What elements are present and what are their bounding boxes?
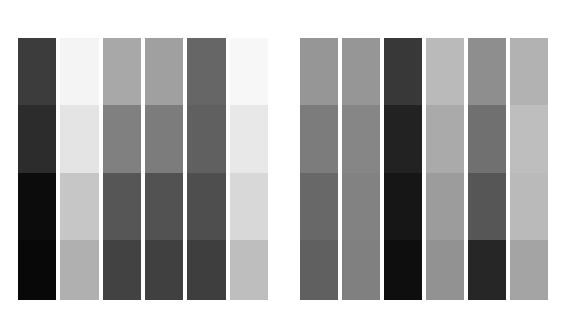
heatmap-cell bbox=[18, 38, 56, 105]
heatmap-panel-left bbox=[18, 38, 268, 300]
heatmap-cell bbox=[300, 105, 338, 173]
heatmap-cell bbox=[230, 105, 268, 173]
heatmap-cell bbox=[510, 105, 548, 173]
heatmap-column bbox=[342, 38, 380, 300]
heatmap-cell bbox=[384, 240, 422, 300]
heatmap-column bbox=[18, 38, 56, 300]
heatmap-cell bbox=[103, 38, 141, 105]
heatmap-cell bbox=[145, 173, 183, 240]
heatmap-cell bbox=[426, 105, 464, 173]
heatmap-cell bbox=[300, 240, 338, 300]
heatmap-cell bbox=[384, 173, 422, 240]
heatmap-cell bbox=[187, 105, 225, 173]
heatmap-cell bbox=[230, 173, 268, 240]
heatmap-cell bbox=[468, 173, 506, 240]
heatmap-cell bbox=[60, 240, 98, 300]
heatmap-cell bbox=[187, 240, 225, 300]
heatmap-cell bbox=[103, 105, 141, 173]
heatmap-cell bbox=[426, 173, 464, 240]
figure-canvas bbox=[0, 0, 562, 330]
heatmap-column bbox=[103, 38, 141, 300]
heatmap-cell bbox=[510, 173, 548, 240]
heatmap-cell bbox=[300, 38, 338, 105]
heatmap-column bbox=[510, 38, 548, 300]
heatmap-cell bbox=[342, 240, 380, 300]
heatmap-cell bbox=[468, 105, 506, 173]
heatmap-cell bbox=[510, 240, 548, 300]
heatmap-cell bbox=[60, 105, 98, 173]
heatmap-column bbox=[60, 38, 98, 300]
heatmap-cell bbox=[18, 105, 56, 173]
heatmap-cell bbox=[230, 240, 268, 300]
heatmap-column bbox=[187, 38, 225, 300]
heatmap-cell bbox=[230, 38, 268, 105]
heatmap-cell bbox=[468, 38, 506, 105]
heatmap-column bbox=[426, 38, 464, 300]
heatmap-cell bbox=[145, 105, 183, 173]
heatmap-cell bbox=[187, 173, 225, 240]
heatmap-cell bbox=[18, 240, 56, 300]
heatmap-cell bbox=[145, 38, 183, 105]
heatmap-column bbox=[230, 38, 268, 300]
heatmap-cell bbox=[342, 38, 380, 105]
heatmap-cell bbox=[187, 38, 225, 105]
heatmap-column bbox=[384, 38, 422, 300]
heatmap-cell bbox=[384, 105, 422, 173]
heatmap-cell bbox=[426, 38, 464, 105]
heatmap-cell bbox=[145, 240, 183, 300]
heatmap-column bbox=[300, 38, 338, 300]
heatmap-cell bbox=[60, 173, 98, 240]
heatmap-cell bbox=[300, 173, 338, 240]
heatmap-cell bbox=[103, 173, 141, 240]
heatmap-cell bbox=[103, 240, 141, 300]
heatmap-cell bbox=[510, 38, 548, 105]
heatmap-cell bbox=[342, 173, 380, 240]
heatmap-cell bbox=[18, 173, 56, 240]
heatmap-column bbox=[468, 38, 506, 300]
heatmap-cell bbox=[426, 240, 464, 300]
heatmap-column bbox=[145, 38, 183, 300]
heatmap-cell bbox=[468, 240, 506, 300]
heatmap-cell bbox=[60, 38, 98, 105]
heatmap-cell bbox=[342, 105, 380, 173]
heatmap-panel-right bbox=[300, 38, 548, 300]
heatmap-cell bbox=[384, 38, 422, 105]
